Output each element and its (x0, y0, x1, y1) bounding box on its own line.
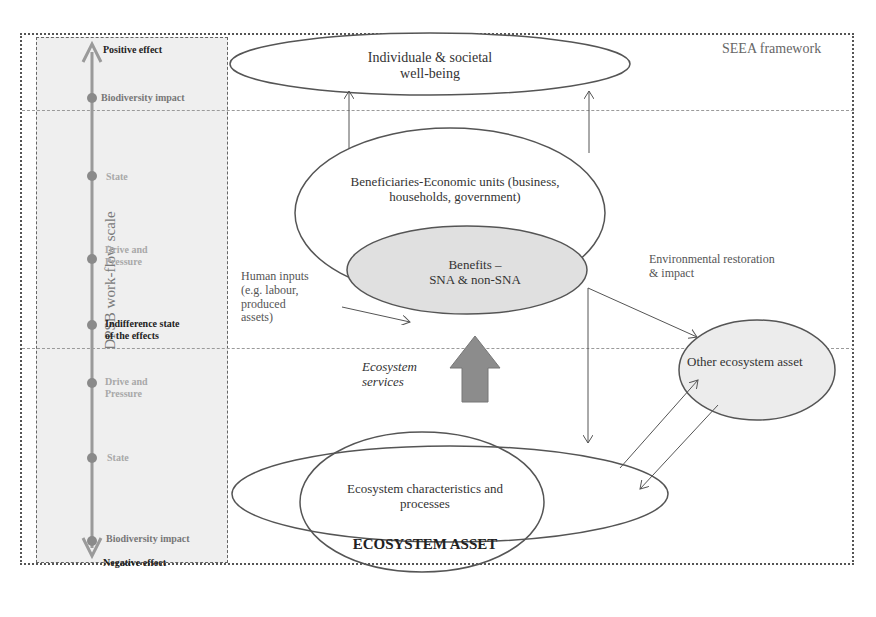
human-inputs-line: (e.g. labour, (241, 284, 309, 298)
scale-label-line: Pressure (105, 256, 148, 268)
characteristics-label: Ecosystem characteristics and processes (330, 482, 520, 512)
seea-framework-label: SEEA framework (722, 41, 821, 57)
ecosystem-services-label: Ecosystem services (362, 360, 417, 390)
scale-label-state-bottom: State (107, 452, 129, 464)
beneficiaries-label: Beneficiaries-Economic units (business, … (330, 175, 580, 205)
scale-axis (83, 44, 101, 556)
scale-label-drive-pressure-top: Drive and Pressure (105, 244, 148, 267)
scale-label-line: Drive and (105, 244, 148, 256)
human-inputs-line: assets) (241, 311, 309, 325)
restoration-label: Environmental restoration & impact (649, 253, 775, 281)
other-asset-label: Other ecosystem asset (687, 355, 803, 370)
characteristics-line: Ecosystem characteristics and (330, 482, 520, 497)
restoration-line: Environmental restoration (649, 253, 775, 267)
scale-label-line: Drive and (105, 376, 148, 388)
ecosystem-services-line: services (362, 375, 417, 390)
ecosystem-asset-label: ECOSYSTEM ASSET (330, 536, 520, 553)
arrow-human-inputs (342, 307, 410, 322)
benefits-line: SNA & non-SNA (400, 273, 550, 288)
beneficiaries-line: Beneficiaries-Economic units (business, (330, 175, 580, 190)
scale-label-state-top: State (106, 171, 128, 183)
ecosystem-services-arrow (450, 336, 500, 402)
wellbeing-label: Individuale & societal well-being (330, 50, 530, 82)
other-asset-ellipse (679, 320, 835, 420)
benefits-label: Benefits – SNA & non-SNA (400, 258, 550, 288)
arrow-restoration-to-other-asset (588, 288, 697, 337)
beneficiaries-line: households, government) (330, 190, 580, 205)
restoration-line: & impact (649, 267, 775, 281)
arrow-ecosystem-to-other-asset (620, 380, 698, 468)
wellbeing-line: Individuale & societal (330, 50, 530, 66)
human-inputs-label: Human inputs (e.g. labour, produced asse… (241, 270, 309, 325)
characteristics-line: processes (330, 497, 520, 512)
benefits-line: Benefits – (400, 258, 550, 273)
human-inputs-line: produced (241, 298, 309, 312)
scale-label-indifference-state: Indifference state of the effects (105, 318, 180, 341)
scale-label-line: of the effects (105, 330, 180, 342)
scale-label-line: Pressure (105, 388, 148, 400)
ecosystem-services-line: Ecosystem (362, 360, 417, 375)
scale-label-line: Indifference state (105, 318, 180, 330)
scale-label-drive-pressure-bottom: Drive and Pressure (105, 376, 148, 399)
scale-label-positive-effect: Positive effect (103, 44, 162, 56)
human-inputs-line: Human inputs (241, 270, 309, 284)
scale-label-negative-effect: Negative effect (103, 557, 166, 569)
scale-label-biodiversity-impact-bottom: Biodiversity impact (106, 533, 190, 545)
scale-label-biodiversity-impact-top: Biodiversity impact (101, 92, 185, 104)
wellbeing-line: well-being (330, 66, 530, 82)
